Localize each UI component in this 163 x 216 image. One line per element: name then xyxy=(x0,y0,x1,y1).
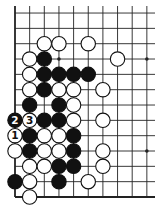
black-stone-icon xyxy=(37,52,51,66)
black-stone-icon xyxy=(37,113,51,127)
black-stone xyxy=(52,174,66,188)
black-stone xyxy=(22,128,36,142)
black-stone-icon xyxy=(66,128,80,142)
white-stone xyxy=(22,67,36,81)
white-stone xyxy=(81,174,95,188)
black-stone-icon xyxy=(22,144,36,158)
move-number-label: 3 xyxy=(26,114,33,126)
black-stone xyxy=(37,67,51,81)
white-stone-icon xyxy=(22,82,36,96)
white-stone xyxy=(110,52,124,66)
black-stone-icon xyxy=(52,98,66,112)
white-stone-icon xyxy=(37,144,51,158)
white-stone-icon xyxy=(52,82,66,96)
white-stone-icon xyxy=(81,174,95,188)
white-stone-icon xyxy=(66,82,80,96)
hoshi-point-icon xyxy=(57,57,61,61)
white-stone xyxy=(22,174,36,188)
black-stone-icon xyxy=(81,67,95,81)
white-stone-icon xyxy=(37,37,51,51)
white-stone xyxy=(96,159,110,173)
white-stone-icon xyxy=(96,82,110,96)
black-stone xyxy=(66,159,80,173)
white-stone xyxy=(52,128,66,142)
white-stone-icon xyxy=(22,67,36,81)
black-stone xyxy=(66,128,80,142)
black-stone-icon xyxy=(52,67,66,81)
white-stone xyxy=(52,144,66,158)
white-stone xyxy=(66,82,80,96)
white-stone-move-3: 3 xyxy=(22,113,36,127)
white-stone-icon xyxy=(110,52,124,66)
white-stone xyxy=(66,113,80,127)
white-stone-icon xyxy=(8,144,22,158)
white-stone-icon xyxy=(22,52,36,66)
black-stone-icon xyxy=(66,67,80,81)
white-stone-icon xyxy=(37,159,51,173)
white-stone-icon xyxy=(22,159,36,173)
black-stone-icon xyxy=(22,128,36,142)
black-stone xyxy=(81,67,95,81)
black-stone-icon xyxy=(37,82,51,96)
white-stone-icon xyxy=(81,37,95,51)
white-stone-move-1: 1 xyxy=(8,128,22,142)
black-stone xyxy=(52,98,66,112)
white-stone xyxy=(8,144,22,158)
white-stone xyxy=(22,190,36,204)
black-stone-icon xyxy=(8,174,22,188)
black-stone xyxy=(52,67,66,81)
white-stone-icon xyxy=(52,144,66,158)
hoshi-point-icon xyxy=(145,149,149,153)
move-number-label: 2 xyxy=(11,114,18,126)
white-stone xyxy=(37,37,51,51)
white-stone-icon xyxy=(37,128,51,142)
white-stone-icon xyxy=(66,98,80,112)
white-stone-icon xyxy=(96,144,110,158)
black-stone-icon xyxy=(66,159,80,173)
go-board: 231 xyxy=(0,0,163,216)
black-stone xyxy=(37,113,51,127)
black-stone xyxy=(22,144,36,158)
move-number-label: 1 xyxy=(11,129,18,141)
white-stone xyxy=(96,82,110,96)
white-stone xyxy=(96,144,110,158)
white-stone xyxy=(52,37,66,51)
white-stone-icon xyxy=(96,113,110,127)
white-stone xyxy=(52,82,66,96)
white-stone-icon xyxy=(52,37,66,51)
white-stone xyxy=(37,128,51,142)
black-stone-icon xyxy=(52,113,66,127)
black-stone xyxy=(37,82,51,96)
black-stone xyxy=(37,52,51,66)
white-stone xyxy=(66,98,80,112)
white-stone-icon xyxy=(22,190,36,204)
black-stone xyxy=(66,67,80,81)
black-stone-icon xyxy=(22,98,36,112)
white-stone xyxy=(96,113,110,127)
white-stone-icon xyxy=(66,113,80,127)
black-stone xyxy=(66,144,80,158)
white-stone xyxy=(22,82,36,96)
white-stone xyxy=(37,159,51,173)
black-stone-icon xyxy=(52,159,66,173)
stones: 231 xyxy=(8,37,125,205)
black-stone-move-2: 2 xyxy=(8,113,22,127)
hoshi-point-icon xyxy=(145,57,149,61)
white-stone xyxy=(37,144,51,158)
white-stone xyxy=(22,159,36,173)
black-stone-icon xyxy=(37,67,51,81)
black-stone-icon xyxy=(52,174,66,188)
white-stone-icon xyxy=(52,128,66,142)
white-stone xyxy=(22,52,36,66)
black-stone xyxy=(8,174,22,188)
black-stone-icon xyxy=(66,144,80,158)
white-stone xyxy=(81,37,95,51)
white-stone-icon xyxy=(22,174,36,188)
black-stone xyxy=(22,98,36,112)
white-stone-icon xyxy=(96,159,110,173)
black-stone xyxy=(52,113,66,127)
black-stone xyxy=(52,159,66,173)
